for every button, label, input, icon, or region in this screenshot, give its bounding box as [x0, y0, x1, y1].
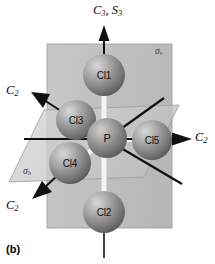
axis-label-c2-right: C2 [195, 131, 208, 144]
atom-label-cl5: Cl5 [137, 136, 167, 146]
atom-label-p: P [92, 133, 122, 144]
sigma-v-sub: v [160, 49, 163, 56]
atom-label-cl1: Cl1 [89, 71, 119, 81]
c2-ul-sub: 2 [14, 88, 18, 98]
atom-label-cl3: Cl3 [61, 116, 91, 126]
c2-ll-sub: 2 [14, 203, 18, 213]
atom-label-cl4: Cl4 [55, 159, 85, 169]
axis-label-c2-lower-left: C2 [6, 199, 19, 212]
atom-label-cl2: Cl2 [89, 208, 119, 218]
axis-label-c3-s3: C3, S3 [93, 4, 122, 17]
sigma-h-sub: h [28, 169, 31, 176]
c3s3-label-mid: , S [106, 3, 119, 17]
axis-label-c2-upper-left: C2 [6, 84, 19, 97]
c2-r-sub: 2 [203, 135, 207, 145]
s3-label-sub: 3 [118, 8, 122, 18]
figure-caption: (b) [6, 244, 20, 255]
plane-label-sigma-v: σv [155, 47, 163, 57]
plane-label-sigma-h: σh [23, 167, 31, 177]
